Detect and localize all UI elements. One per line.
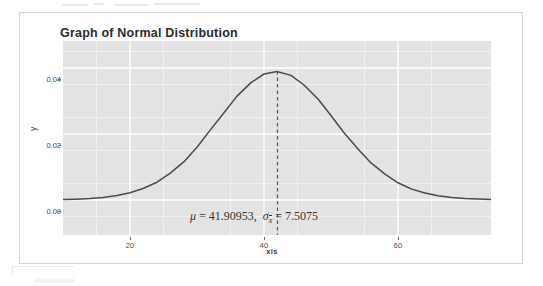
x-axis-title: xis [20, 247, 524, 256]
chart-card: Graph of Normal Distribution y 0.00 0.02… [19, 12, 523, 264]
y-tick-label-1: 0.02 [27, 141, 61, 150]
sigma-subscript: x [269, 216, 273, 225]
x-tick-mark-0 [130, 237, 131, 240]
stats-annotation: μ = 41.90953, σx = 7.5075 [190, 209, 318, 225]
y-tick-mark-1 [58, 145, 61, 146]
y-tick-mark-2 [58, 79, 61, 80]
mu-value: = 41.90953, [196, 209, 257, 223]
sigma-value: = 7.5075 [272, 209, 318, 223]
plot-panel [63, 41, 491, 235]
y-axis: 0.00 0.02 0.04 [20, 41, 61, 235]
x-tick-mark-2 [398, 237, 399, 240]
plot-svg [63, 41, 491, 235]
y-tick-label-2: 0.04 [27, 75, 61, 84]
scan-artifact-top [62, 1, 202, 10]
chart-title: Graph of Normal Distribution [60, 26, 238, 40]
y-tick-label-0: 0.00 [27, 207, 61, 216]
x-tick-mark-1 [264, 237, 265, 240]
scan-artifact-bottom [12, 266, 92, 284]
y-tick-mark-0 [58, 211, 61, 212]
